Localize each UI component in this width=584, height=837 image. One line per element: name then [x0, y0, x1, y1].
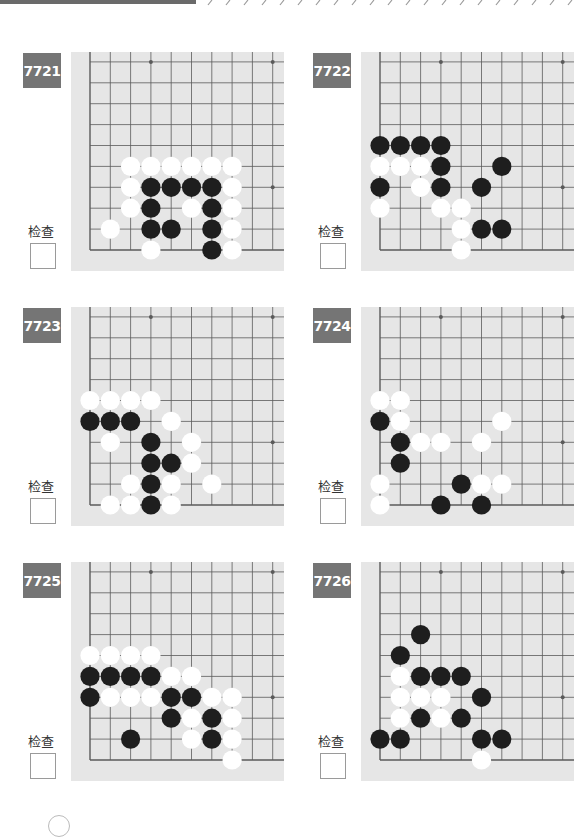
white-stone — [411, 688, 430, 707]
check-label: 检查 — [28, 221, 54, 240]
check-box[interactable] — [320, 498, 346, 524]
white-stone — [223, 688, 242, 707]
black-stone — [202, 709, 221, 728]
black-stone — [391, 136, 410, 155]
white-stone — [121, 391, 140, 410]
white-stone — [431, 709, 450, 728]
white-stone — [431, 199, 450, 218]
black-stone — [370, 178, 389, 197]
white-stone — [223, 730, 242, 749]
black-stone — [80, 688, 99, 707]
problem-7724: 7724检查 — [310, 307, 584, 537]
white-stone — [101, 646, 120, 665]
go-board[interactable] — [71, 52, 284, 271]
black-stone — [202, 220, 221, 239]
black-stone — [411, 667, 430, 686]
white-stone — [80, 646, 99, 665]
check-box[interactable] — [320, 243, 346, 269]
problem-number-label: 7725 — [23, 563, 61, 598]
white-stone — [370, 391, 389, 410]
white-stone — [492, 475, 511, 494]
problem-number-label: 7721 — [23, 53, 61, 88]
black-stone — [141, 454, 160, 473]
black-stone — [202, 240, 221, 259]
go-board[interactable] — [71, 307, 284, 526]
white-stone — [141, 240, 160, 259]
black-stone — [492, 157, 511, 176]
white-stone — [391, 157, 410, 176]
white-stone — [223, 709, 242, 728]
problem-7726: 7726检查 — [310, 562, 584, 792]
white-stone — [162, 412, 181, 431]
black-stone — [141, 199, 160, 218]
white-stone — [101, 688, 120, 707]
white-stone — [370, 199, 389, 218]
white-stone — [162, 157, 181, 176]
check-box[interactable] — [30, 243, 56, 269]
black-stone — [141, 433, 160, 452]
page-marker-icon — [48, 815, 70, 837]
white-stone — [202, 688, 221, 707]
black-stone — [411, 709, 430, 728]
header-bar — [0, 0, 196, 4]
black-stone — [162, 220, 181, 239]
black-stone — [452, 709, 471, 728]
white-stone — [411, 157, 430, 176]
white-stone — [223, 750, 242, 769]
white-stone — [162, 475, 181, 494]
white-stone — [391, 688, 410, 707]
white-stone — [472, 750, 491, 769]
go-board[interactable] — [361, 562, 574, 781]
check-label: 检查 — [28, 731, 54, 750]
black-stone — [472, 730, 491, 749]
black-stone — [101, 412, 120, 431]
black-stone — [370, 730, 389, 749]
white-stone — [121, 199, 140, 218]
white-stone — [182, 709, 201, 728]
white-stone — [370, 495, 389, 514]
black-stone — [472, 688, 491, 707]
go-board[interactable] — [71, 562, 284, 781]
black-stone — [121, 412, 140, 431]
check-box[interactable] — [30, 498, 56, 524]
black-stone — [182, 688, 201, 707]
black-stone — [80, 667, 99, 686]
white-stone — [121, 646, 140, 665]
go-board[interactable] — [361, 52, 574, 271]
black-stone — [141, 475, 160, 494]
check-label: 检查 — [28, 476, 54, 495]
go-board[interactable] — [361, 307, 574, 526]
check-label: 检查 — [318, 731, 344, 750]
problem-number-label: 7726 — [313, 563, 351, 598]
black-stone — [431, 157, 450, 176]
check-box[interactable] — [30, 753, 56, 779]
black-stone — [452, 667, 471, 686]
white-stone — [370, 157, 389, 176]
white-stone — [121, 495, 140, 514]
white-stone — [80, 391, 99, 410]
black-stone — [162, 688, 181, 707]
black-stone — [162, 178, 181, 197]
white-stone — [492, 412, 511, 431]
white-stone — [182, 730, 201, 749]
black-stone — [202, 199, 221, 218]
black-stone — [370, 412, 389, 431]
black-stone — [492, 220, 511, 239]
white-stone — [101, 433, 120, 452]
white-stone — [223, 157, 242, 176]
problem-7725: 7725检查 — [20, 562, 310, 792]
black-stone — [472, 178, 491, 197]
black-stone — [370, 136, 389, 155]
white-stone — [121, 688, 140, 707]
black-stone — [141, 178, 160, 197]
white-stone — [391, 667, 410, 686]
check-label: 检查 — [318, 476, 344, 495]
white-stone — [101, 495, 120, 514]
white-stone — [202, 157, 221, 176]
white-stone — [370, 475, 389, 494]
black-stone — [411, 136, 430, 155]
black-stone — [141, 667, 160, 686]
white-stone — [121, 475, 140, 494]
white-stone — [391, 391, 410, 410]
check-box[interactable] — [320, 753, 346, 779]
